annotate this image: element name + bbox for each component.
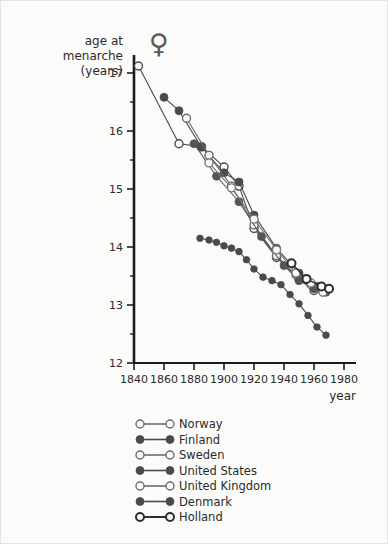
- data-point-marker: [136, 513, 144, 521]
- series-line: [209, 163, 323, 292]
- x-axis-tick-label: 1880: [180, 373, 208, 386]
- data-point-marker: [175, 107, 183, 115]
- y-axis-tick-label: 16: [109, 125, 123, 138]
- data-point-marker: [243, 256, 250, 263]
- legend-label: Holland: [179, 510, 223, 524]
- x-axis-title: year: [329, 389, 356, 403]
- legend-item-united-kingdom[interactable]: United Kingdom: [136, 479, 271, 493]
- legend-label: Norway: [179, 417, 223, 431]
- data-point-marker: [197, 235, 204, 242]
- data-series-layer: [135, 62, 334, 338]
- data-point-marker: [287, 291, 294, 298]
- chart-legend: NorwayFinlandSwedenUnited StatesUnited K…: [136, 417, 271, 524]
- data-point-marker: [166, 436, 174, 444]
- legend-item-sweden[interactable]: Sweden: [136, 448, 224, 462]
- y-axis-tick-label: 13: [109, 299, 123, 312]
- data-point-marker: [278, 281, 285, 288]
- data-point-marker: [166, 467, 174, 475]
- legend-label: Denmark: [179, 495, 232, 509]
- data-point-marker: [136, 467, 144, 475]
- legend-label: Finland: [179, 433, 220, 447]
- data-point-marker: [250, 215, 258, 223]
- data-point-marker: [135, 62, 143, 70]
- series-line: [194, 144, 326, 292]
- data-point-marker: [205, 159, 213, 167]
- data-point-marker: [160, 93, 168, 101]
- data-point-marker: [288, 259, 296, 267]
- legend-label: United Kingdom: [179, 479, 271, 493]
- y-axis-tick-label: 14: [109, 241, 123, 254]
- data-point-marker: [136, 451, 144, 459]
- data-point-marker: [213, 172, 221, 180]
- data-point-marker: [323, 332, 330, 339]
- data-point-marker: [269, 277, 276, 284]
- data-point-marker: [305, 312, 312, 319]
- legend-item-finland[interactable]: Finland: [136, 433, 220, 447]
- x-axis-tick-label: 1960: [300, 373, 328, 386]
- data-point-marker: [166, 482, 174, 490]
- data-point-marker: [206, 237, 213, 244]
- x-axis-tick-label: 1920: [240, 373, 268, 386]
- venus-female-icon: ♀: [149, 28, 169, 59]
- axes-layer: [127, 55, 356, 370]
- legend-item-norway[interactable]: Norway: [136, 417, 223, 431]
- data-point-marker: [166, 451, 174, 459]
- data-point-marker: [325, 285, 333, 293]
- data-point-marker: [251, 266, 258, 273]
- axis-labels-layer: 1213141516171840186018801900192019401960…: [63, 28, 358, 403]
- data-point-marker: [228, 184, 236, 192]
- data-point-marker: [260, 274, 267, 281]
- x-axis-tick-label: 1980: [330, 373, 358, 386]
- data-point-marker: [314, 324, 321, 331]
- x-axis-tick-label: 1900: [210, 373, 238, 386]
- legend-item-denmark[interactable]: Denmark: [136, 495, 232, 509]
- y-axis-tick-label: 12: [109, 357, 123, 370]
- data-point-marker: [136, 498, 144, 506]
- series-line: [187, 118, 322, 289]
- data-point-marker: [136, 420, 144, 428]
- y-axis-title-line: menarche: [63, 49, 123, 63]
- data-point-marker: [273, 246, 281, 254]
- data-point-marker: [190, 140, 198, 148]
- data-point-marker: [296, 301, 303, 308]
- data-point-marker: [235, 178, 243, 186]
- menarche-age-line-chart: 1213141516171840186018801900192019401960…: [1, 1, 388, 544]
- data-point-marker: [175, 140, 183, 148]
- chart-figure: 1213141516171840186018801900192019401960…: [0, 0, 388, 544]
- data-point-marker: [166, 498, 174, 506]
- data-point-marker: [236, 248, 243, 255]
- data-point-marker: [136, 436, 144, 444]
- x-axis-tick-label: 1940: [270, 373, 298, 386]
- data-point-marker: [213, 239, 220, 246]
- data-point-marker: [303, 275, 311, 283]
- data-point-marker: [183, 114, 191, 122]
- legend-item-holland[interactable]: Holland: [136, 510, 223, 524]
- y-axis-tick-label: 15: [109, 183, 123, 196]
- data-point-marker: [166, 420, 174, 428]
- data-point-marker: [166, 513, 174, 521]
- legend-label: United States: [179, 464, 257, 478]
- y-axis-title-line: age at: [85, 34, 124, 48]
- legend-item-united-states[interactable]: United States: [136, 464, 257, 478]
- y-axis-title-line: (years): [81, 64, 123, 78]
- data-point-marker: [221, 243, 228, 250]
- legend-label: Sweden: [179, 448, 224, 462]
- data-point-marker: [228, 245, 235, 252]
- x-axis-tick-label: 1860: [150, 373, 178, 386]
- x-axis-tick-label: 1840: [120, 373, 148, 386]
- data-point-marker: [205, 151, 213, 159]
- data-point-marker: [136, 482, 144, 490]
